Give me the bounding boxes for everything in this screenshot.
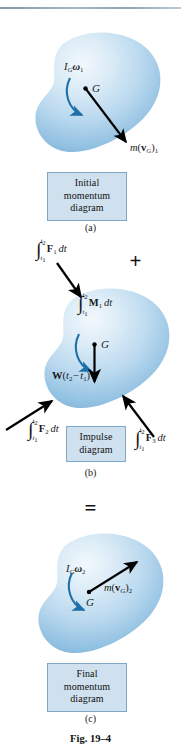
equals-operator: = (0, 496, 181, 521)
moment-subscript-1: 1 (99, 302, 102, 309)
velocity-index-c: 2 (129, 587, 132, 594)
m1-upper-limit-n: 2 (84, 293, 87, 300)
figure-vector-layer (0, 0, 181, 747)
weight-minus: − (73, 370, 79, 381)
weight-impulse-label: W(t2−t1) (52, 371, 90, 383)
integrand-f2: F2dt (39, 423, 59, 435)
body-blob-c (38, 533, 163, 653)
caption-line-3-a: diagram (48, 202, 126, 215)
angular-momentum-arrow-a (67, 78, 82, 115)
caption-line-2-b: diagram (67, 444, 125, 457)
center-of-mass-label-a: G (92, 83, 100, 94)
integral-limits-f3: t2 t1 (139, 430, 144, 448)
linear-momentum-label-a: m(vG)1 (130, 143, 158, 155)
velocity-index-a: 1 (155, 147, 158, 154)
dt-f1: dt (59, 243, 67, 254)
center-of-mass-dot-c (87, 590, 91, 594)
integral-limits-f1: t2 t1 (40, 241, 45, 259)
angular-momentum-label-c: IGω2 (66, 564, 85, 576)
f2-upper-limit-n: 2 (34, 419, 37, 426)
panel-sublabel-a: (a) (0, 222, 181, 233)
figure-number: Fig. 19–4 (0, 733, 181, 744)
center-of-mass-label-b: G (101, 339, 109, 350)
top-divider-rule (0, 7, 181, 9)
figure-page: IGω1 G m(vG)1 Initial momentum diagram (… (0, 0, 181, 747)
f2-lower-limit-n: 1 (34, 436, 37, 443)
linear-momentum-label-c: m(vG)2 (104, 583, 132, 595)
moment-symbol-1: M (89, 297, 99, 308)
caption-box-initial-momentum: Initial momentum diagram (47, 172, 127, 221)
angular-momentum-label-a: IGω1 (64, 62, 83, 74)
m1-lower-limit-n: 1 (84, 310, 87, 317)
weight-paren-close: ) (87, 370, 91, 381)
integrand-m1: M1dt (89, 297, 113, 309)
center-of-mass-label-c: G (86, 597, 94, 608)
caption-line-1-b: Impulse (67, 431, 125, 444)
linear-momentum-arrow-a (86, 89, 127, 143)
omega-subscript-a: 1 (80, 66, 83, 73)
force-impulse-2-label: ∫ t2 t1 F2dt (28, 421, 59, 439)
moment-impulse-label: ∫ t2 t1 M1dt (78, 295, 112, 313)
force-impulse-1-label: ∫ t2 t1 F1dt (36, 241, 67, 259)
caption-box-final-momentum: Final momentum diagram (47, 663, 127, 712)
panel-sublabel-c: (c) (0, 713, 181, 724)
integral-limits-f2: t2 t1 (32, 421, 37, 439)
caption-box-impulse: Impulse diagram (66, 426, 126, 462)
f1-lower-limit-n: 1 (42, 256, 45, 263)
angular-momentum-arrow-c (69, 573, 84, 610)
moment-impulse-arrow (76, 334, 91, 371)
integrand-f1: F1dt (47, 243, 67, 255)
caption-line-3-c: diagram (48, 693, 126, 706)
caption-line-2-a: momentum (48, 190, 126, 203)
dt-f2: dt (51, 423, 59, 434)
f3-upper-limit-n: 2 (141, 428, 144, 435)
force-subscript-2: 2 (45, 428, 48, 435)
weight-t2-sub: 2 (69, 375, 72, 382)
center-of-mass-dot-b (92, 342, 96, 346)
mass-symbol-a: m (130, 142, 138, 153)
integrand-f3: F3dt (146, 432, 166, 444)
panel-sublabel-b: (b) (0, 467, 181, 478)
dt-m1: dt (104, 297, 112, 308)
f1-upper-limit-n: 2 (42, 239, 45, 246)
omega-symbol-c: ω (74, 563, 82, 574)
f3-lower-limit-n: 1 (141, 445, 144, 452)
force-impulse-3-label: ∫ t2 t1 F3dt (135, 430, 166, 448)
caption-line-1-c: Final (48, 668, 126, 681)
mass-symbol-c: m (104, 582, 112, 593)
center-of-mass-dot-a (83, 86, 87, 90)
omega-subscript-c: 2 (82, 568, 85, 575)
dt-f3: dt (158, 432, 166, 443)
force-subscript-3: 3 (152, 437, 155, 444)
integral-limits-m1: t2 t1 (82, 295, 87, 313)
omega-symbol-a: ω (72, 61, 80, 72)
weight-symbol: W (52, 370, 63, 381)
force-subscript-1: 1 (53, 248, 56, 255)
caption-line-1-a: Initial (48, 177, 126, 190)
caption-line-2-c: momentum (48, 681, 126, 694)
